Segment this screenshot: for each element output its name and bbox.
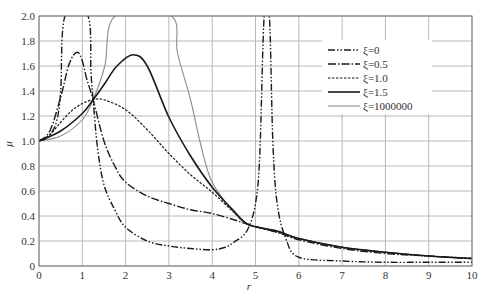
y-tick-label: 1.2	[21, 110, 35, 122]
chart: 012345678910 00.20.40.60.81.01.21.41.61.…	[0, 0, 487, 298]
x-tick-label: 8	[383, 269, 389, 281]
x-tick-label: 1	[80, 269, 86, 281]
legend: ξ=0 ξ=0.5 ξ=1.0 ξ=1.5 ξ=1000000	[322, 40, 432, 114]
y-axis-ticks: 00.20.40.60.81.01.21.41.61.82.0	[21, 10, 35, 272]
y-tick-label: 1.0	[21, 135, 35, 147]
x-tick-label: 2	[123, 269, 129, 281]
y-tick-label: 1.4	[21, 85, 35, 97]
x-tick-label: 6	[296, 269, 302, 281]
y-tick-label: 1.6	[21, 60, 35, 72]
x-tick-label: 9	[426, 269, 432, 281]
y-axis-label: μ	[2, 141, 14, 148]
y-tick-label: 0.6	[21, 185, 35, 197]
x-tick-label: 0	[36, 269, 42, 281]
y-tick-label: 2.0	[21, 10, 35, 22]
legend-label: ξ=1000000	[363, 100, 413, 113]
y-tick-label: 0.8	[21, 160, 35, 172]
y-tick-label: 1.8	[21, 35, 35, 47]
legend-label: ξ=0	[363, 44, 380, 57]
x-axis-label: r	[247, 280, 252, 292]
y-tick-label: 0	[30, 260, 36, 272]
x-tick-label: 7	[339, 269, 345, 281]
y-tick-label: 0.2	[21, 235, 35, 247]
y-tick-label: 0.4	[21, 210, 35, 222]
x-tick-label: 5	[253, 269, 259, 281]
legend-label: ξ=1.5	[363, 86, 388, 99]
x-axis-ticks: 012345678910	[36, 269, 478, 281]
x-tick-label: 10	[467, 269, 479, 281]
x-tick-label: 4	[209, 269, 215, 281]
legend-label: ξ=1.0	[363, 72, 388, 85]
legend-label: ξ=0.5	[363, 58, 388, 71]
x-tick-label: 3	[166, 269, 172, 281]
